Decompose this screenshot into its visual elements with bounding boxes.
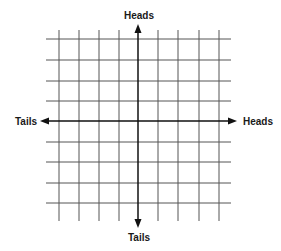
coordinate-grid-diagram: Heads Tails Tails Heads	[0, 0, 281, 251]
grid-canvas	[0, 0, 281, 251]
arrow-left-icon	[40, 118, 49, 125]
arrow-right-icon	[228, 118, 237, 125]
arrow-up-icon	[135, 24, 142, 33]
axis-label-left: Tails	[15, 116, 37, 128]
arrow-down-icon	[135, 219, 142, 228]
axis-label-top: Heads	[124, 10, 154, 22]
axis-label-right: Heads	[243, 116, 273, 128]
axis-label-bottom: Tails	[128, 232, 150, 244]
